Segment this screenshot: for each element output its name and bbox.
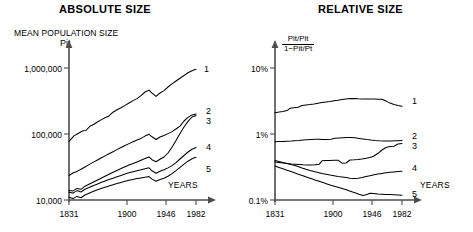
curve-series-2-right [275,137,402,141]
y-axis-right [270,40,278,202]
curve-series-4-right [275,161,402,179]
x-axis-right [275,197,422,205]
figure-two-panel-charts: ABSOLUTE SIZE MEAN POPULATION SIZE Pit 1… [0,0,473,232]
plot-area-relative-size [0,0,473,232]
curve-series-5-right [275,166,402,195]
curve-series-1-right [275,99,402,113]
curve-series-3-right [275,144,402,165]
curves-relative [275,99,402,196]
